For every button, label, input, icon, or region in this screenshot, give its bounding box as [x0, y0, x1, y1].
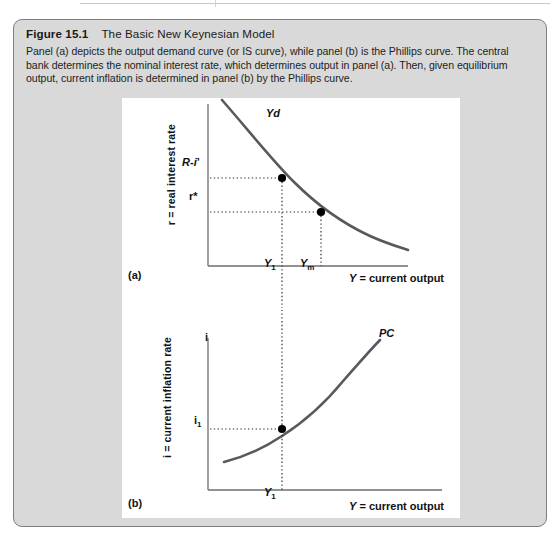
- panel-b-xtick-Y1: Y1: [264, 486, 276, 501]
- panel-b-tag: (b): [128, 497, 142, 509]
- figure-title: The Basic New Keynesian Model: [101, 27, 274, 40]
- panel-b-curve-label: PC: [379, 327, 394, 339]
- panel-a-point-2: [317, 208, 325, 216]
- panel-a-x-axis-title: Y = current output: [349, 272, 444, 284]
- panel-b-point-1: [278, 425, 286, 433]
- panel-a-xtick-Ym: Ym: [300, 257, 314, 272]
- panel-b-ytick-i1: i1: [194, 414, 202, 429]
- panel-a-curve-label: Yd: [266, 107, 280, 119]
- panel-b-curve-pc: [224, 340, 380, 462]
- figure-description: Panel (a) depicts the output demand curv…: [26, 45, 531, 86]
- panel-b-y-axis-title: i = current inflation rate: [162, 337, 173, 458]
- figure-number: Figure 15.1: [26, 27, 88, 40]
- panel-b-x-axis-title: Y = current output: [349, 500, 444, 512]
- page-top-rule-tick: [215, 0, 216, 7]
- panel-a-curve-yd: [222, 100, 408, 250]
- panel-a-ytick-R-minus-i: R-i’: [182, 156, 200, 168]
- panel-a-tag: (a): [128, 269, 141, 281]
- figure-caption: Figure 15.1 The Basic New Keynesian Mode…: [26, 26, 531, 86]
- panel-a-xtick-Y1: Y1: [264, 257, 276, 272]
- panel-a-ytick-r-star: r*: [189, 190, 198, 202]
- page-top-rule: [80, 3, 550, 4]
- panel-b-y-axis-symbol: i: [205, 331, 208, 343]
- figure-title-line: Figure 15.1 The Basic New Keynesian Mode…: [26, 26, 531, 41]
- panel-a-point-1: [278, 174, 286, 182]
- panel-a-y-axis-title: r = real interest rate: [166, 124, 177, 225]
